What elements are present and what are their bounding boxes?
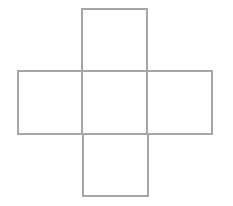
cross-net-diagram bbox=[0, 0, 233, 206]
square-top bbox=[82, 9, 147, 71]
square-center bbox=[82, 71, 147, 134]
square-right bbox=[147, 71, 212, 134]
square-bottom bbox=[83, 134, 148, 196]
square-left bbox=[18, 71, 82, 134]
